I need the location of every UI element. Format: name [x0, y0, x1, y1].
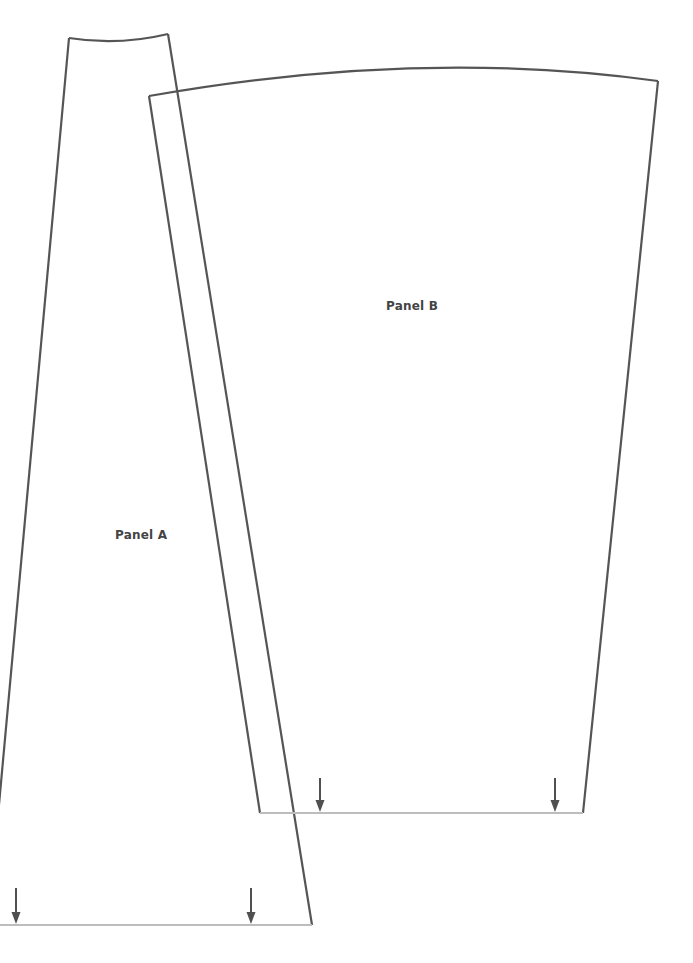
panel-b-left-edge [149, 96, 260, 813]
panel-a-left-edge [0, 38, 69, 925]
panel-b [149, 68, 658, 813]
panel-a-right-edge [168, 34, 312, 925]
panel-a-label: Panel A [115, 528, 167, 542]
panel-b-right-edge [583, 81, 658, 813]
panel-a-top-edge [69, 34, 168, 41]
grainline-arrow-icon [316, 778, 325, 812]
pattern-canvas [0, 0, 693, 963]
grainline-arrow-icon [12, 888, 21, 924]
panel-b-label: Panel B [386, 299, 438, 313]
panel-b-top-edge [149, 68, 658, 96]
grainline-arrow-icon [551, 778, 560, 812]
grainline-arrow-icon [247, 888, 256, 924]
panel-a [0, 34, 312, 925]
